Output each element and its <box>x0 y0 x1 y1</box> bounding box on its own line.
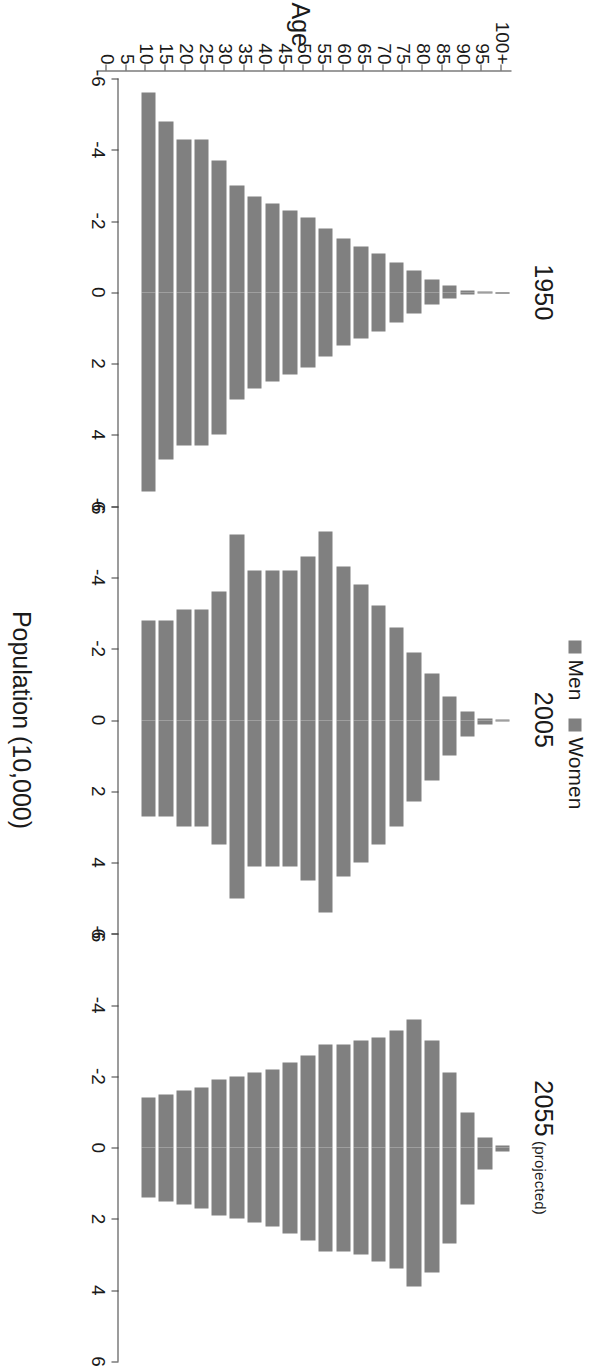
bar-women <box>211 720 226 845</box>
bar-row <box>493 933 511 1361</box>
x-axis: -6-4-20246 <box>117 933 118 1361</box>
bar-row <box>316 78 334 506</box>
bar-women <box>371 292 386 331</box>
bar-men <box>282 1062 297 1148</box>
bar-row <box>139 933 157 1361</box>
y-axis-tick-label: 75 <box>391 43 413 64</box>
bar-women <box>424 292 439 304</box>
plot-area <box>139 933 511 1361</box>
y-axis-tick <box>283 64 284 70</box>
bar-women <box>211 292 226 435</box>
bar-row <box>174 933 192 1361</box>
bar-men <box>353 246 368 292</box>
bar-women <box>477 292 492 293</box>
bar-row <box>405 506 423 934</box>
bar-row <box>316 506 334 934</box>
bar-men <box>353 1040 368 1147</box>
bar-women <box>158 1147 173 1200</box>
bar-men <box>158 1094 173 1147</box>
x-axis-tick <box>111 363 118 364</box>
bar-women <box>442 292 457 298</box>
bar-men <box>247 196 262 292</box>
bar-row <box>281 78 299 506</box>
bar-row <box>476 933 494 1361</box>
y-axis-tick-label: 15 <box>154 43 176 64</box>
y-axis-tick-label: 45 <box>273 43 295 64</box>
x-axis-tick <box>111 862 118 863</box>
x-axis-tick-label: -2 <box>86 212 108 229</box>
y-axis-tick-label: 70 <box>372 43 394 64</box>
x-axis-tick <box>111 1005 118 1006</box>
bar-women <box>141 1147 156 1197</box>
x-axis-tick-label: -2 <box>86 1067 108 1084</box>
bar-women <box>176 292 191 445</box>
bar-women <box>371 1147 386 1261</box>
bar-women <box>282 1147 297 1233</box>
bar-row <box>369 78 387 506</box>
bar-women <box>194 1147 209 1208</box>
bar-men <box>336 238 351 291</box>
bar-women <box>336 1147 351 1250</box>
bar-women <box>318 720 333 912</box>
y-axis-tick <box>263 64 264 70</box>
bar-men <box>460 1112 475 1148</box>
bar-women <box>176 1147 191 1204</box>
x-axis-tick-label: 0 <box>86 714 108 725</box>
bar-row <box>423 933 441 1361</box>
bar-women <box>406 720 421 802</box>
bar-women <box>460 720 475 736</box>
bar-women <box>389 1147 404 1268</box>
bar-row <box>405 78 423 506</box>
bar-row <box>245 78 263 506</box>
y-axis-tick-label: 55 <box>312 43 334 64</box>
bar-men <box>176 1090 191 1147</box>
bar-women <box>300 1147 315 1240</box>
bar-row <box>440 933 458 1361</box>
bar-row <box>476 78 494 506</box>
bar-row <box>157 506 175 934</box>
bar-women <box>406 292 421 313</box>
bar-men <box>442 285 457 291</box>
y-axis-tick-label: 50 <box>293 43 315 64</box>
bar-men <box>406 652 421 720</box>
bar-men <box>371 253 386 292</box>
bar-women <box>282 292 297 374</box>
bar-women <box>424 1147 439 1272</box>
bar-row <box>174 506 192 934</box>
bar-women <box>336 720 351 877</box>
bar-women <box>300 720 315 880</box>
bar-row <box>352 78 370 506</box>
y-axis-tick-label: 90 <box>451 43 473 64</box>
bar-men <box>158 121 173 292</box>
y-axis-tick <box>144 64 145 70</box>
bar-women <box>460 1147 475 1204</box>
bar-women <box>336 292 351 345</box>
y-axis-tick-label: 80 <box>411 43 433 64</box>
bar-rows <box>139 78 511 506</box>
panel-1950: 1950-6-4-20246 <box>87 78 557 506</box>
y-axis-tick <box>480 64 481 70</box>
bar-women <box>265 292 280 381</box>
bar-men <box>282 210 297 292</box>
y-axis-tick <box>401 64 402 70</box>
bar-women <box>389 292 404 322</box>
x-axis-tick-label: -4 <box>86 141 108 158</box>
y-axis-tick <box>322 64 323 70</box>
bar-row <box>458 506 476 934</box>
bar-men <box>353 584 368 719</box>
x-axis-tick-label: -6 <box>86 70 108 87</box>
bar-row <box>352 933 370 1361</box>
bar-men <box>194 139 209 292</box>
bar-women <box>247 292 262 388</box>
x-axis-tick <box>111 221 118 222</box>
x-axis-tick <box>111 648 118 649</box>
bar-women <box>495 720 510 721</box>
y-axis-tick <box>164 64 165 70</box>
bar-women <box>158 720 173 816</box>
bar-men <box>176 609 191 719</box>
bar-row <box>139 78 157 506</box>
bar-men <box>247 570 262 720</box>
legend-swatch-men-icon <box>569 640 582 653</box>
y-axis-tick-label: 65 <box>352 43 374 64</box>
x-axis-tick-label: 0 <box>86 287 108 298</box>
